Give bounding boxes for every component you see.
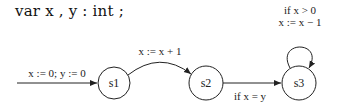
initial-transition: x := 0; y := 0: [17, 67, 97, 83]
transition-s3-self-loop: if x > 0 x := x − 1: [279, 4, 322, 68]
state-s2[interactable]: s2: [189, 66, 223, 100]
transition-s1-s2-label: x := x + 1: [139, 45, 182, 57]
state-s1-label: s1: [109, 76, 120, 90]
state-s1[interactable]: s1: [98, 67, 130, 99]
state-s2-label: s2: [201, 76, 212, 90]
initial-transition-label: x := 0; y := 0: [28, 67, 86, 79]
self-loop-update-label: x := x − 1: [279, 16, 322, 28]
transition-s2-s3: if x = y: [223, 83, 281, 102]
transition-s1-s2: x := x + 1: [128, 45, 191, 75]
transition-s2-s3-label: if x = y: [234, 90, 267, 102]
state-s3[interactable]: s3: [282, 66, 316, 100]
state-s3-label: s3: [294, 76, 305, 90]
state-machine-diagram: x := 0; y := 0 s1 x := x + 1 s2 if x = y…: [0, 0, 337, 108]
self-loop-guard-label: if x > 0: [284, 4, 317, 16]
